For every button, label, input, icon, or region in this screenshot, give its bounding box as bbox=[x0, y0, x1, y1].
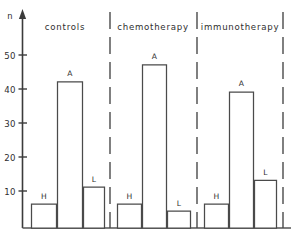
bar-controls-l[interactable] bbox=[84, 187, 105, 228]
bar-group-immunotherapy: H A L bbox=[205, 79, 277, 228]
y-axis-title: n bbox=[7, 11, 12, 21]
y-tick-label-20: 20 bbox=[4, 153, 16, 163]
bar-label-chemotherapy-h: H bbox=[126, 192, 132, 201]
bar-immunotherapy-h[interactable] bbox=[205, 204, 229, 228]
chart-canvas: 50 40 30 20 10 n H A L bbox=[0, 0, 292, 247]
group-title-chemotherapy: chemotherapy bbox=[117, 22, 189, 32]
y-tick-label-10: 10 bbox=[4, 187, 16, 197]
y-axis bbox=[19, 9, 26, 228]
group-title-controls: controls bbox=[45, 22, 85, 32]
bar-controls-h[interactable] bbox=[32, 204, 57, 228]
bar-controls-a[interactable] bbox=[58, 82, 83, 228]
bar-chemotherapy-l[interactable] bbox=[168, 211, 191, 228]
y-tick-label-30: 30 bbox=[4, 119, 16, 129]
bar-group-controls: H A L bbox=[32, 69, 105, 228]
y-axis-arrow-icon bbox=[19, 9, 26, 19]
bar-label-controls-a: A bbox=[67, 69, 73, 78]
bar-immunotherapy-l[interactable] bbox=[255, 180, 277, 228]
bar-group-chemotherapy: H A L bbox=[118, 52, 191, 228]
bar-chemotherapy-h[interactable] bbox=[118, 204, 142, 228]
bar-label-controls-h: H bbox=[41, 192, 47, 201]
bar-label-chemotherapy-l: L bbox=[177, 199, 182, 208]
bar-chart-figure: 50 40 30 20 10 n H A L bbox=[0, 0, 292, 247]
y-tick-label-40: 40 bbox=[4, 85, 16, 95]
bar-label-controls-l: L bbox=[92, 175, 97, 184]
bar-chemotherapy-a[interactable] bbox=[143, 65, 167, 228]
bar-label-chemotherapy-a: A bbox=[152, 52, 158, 61]
bar-label-immunotherapy-h: H bbox=[213, 192, 219, 201]
group-title-immunotherapy: immunotherapy bbox=[201, 22, 279, 32]
bar-immunotherapy-a[interactable] bbox=[230, 92, 254, 228]
bar-label-immunotherapy-a: A bbox=[239, 79, 245, 88]
bar-label-immunotherapy-l: L bbox=[263, 168, 268, 177]
y-tick-label-50: 50 bbox=[4, 51, 16, 61]
